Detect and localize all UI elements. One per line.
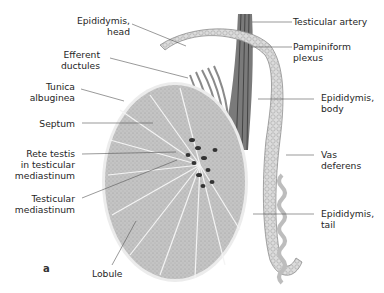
label-text: mediastinum xyxy=(10,170,75,181)
label-text: Septum xyxy=(20,118,75,129)
label-text: Testicular artery xyxy=(293,16,367,27)
label-rete-testis: Rete testis in testicular mediastinum xyxy=(10,148,75,181)
testis-body xyxy=(102,82,248,282)
label-lobule: Lobule xyxy=(92,268,122,279)
label-text: tail xyxy=(321,219,374,230)
label-text: head xyxy=(70,26,130,37)
label-vas-deferens: Vas deferens xyxy=(321,149,361,171)
anatomy-figure: Epididymis, head Efferent ductules Tunic… xyxy=(0,0,384,293)
label-epididymis-tail: Epididymis, tail xyxy=(321,208,374,230)
label-text: plexus xyxy=(293,52,351,63)
label-text: Testicular xyxy=(10,193,75,204)
label-tunica-albuginea: Tunica albuginea xyxy=(20,81,75,103)
label-text: albuginea xyxy=(20,92,75,103)
label-text: Efferent xyxy=(44,49,100,60)
label-text: Rete testis xyxy=(10,148,75,159)
label-text: Epididymis, xyxy=(321,208,374,219)
label-text: in testicular xyxy=(10,159,75,170)
label-text: Tunica xyxy=(20,81,75,92)
label-text: Epididymis, xyxy=(321,92,374,103)
label-text: Lobule xyxy=(92,268,122,279)
label-text: ductules xyxy=(44,60,100,71)
panel-letter: a xyxy=(43,263,50,274)
label-epididymis-body: Epididymis, body xyxy=(321,92,374,114)
label-text: Pampiniform xyxy=(293,41,351,52)
label-text: Vas xyxy=(321,149,361,160)
label-epididymis-head: Epididymis, head xyxy=(70,15,130,37)
label-septum: Septum xyxy=(20,118,75,129)
label-text: deferens xyxy=(321,160,361,171)
label-text: mediastinum xyxy=(10,204,75,215)
label-testicular-artery: Testicular artery xyxy=(293,16,367,27)
label-text: Epididymis, xyxy=(70,15,130,26)
label-efferent-ductules: Efferent ductules xyxy=(44,49,100,71)
label-pampiniform-plexus: Pampiniform plexus xyxy=(293,41,351,63)
label-text: body xyxy=(321,103,374,114)
label-testicular-mediastinum: Testicular mediastinum xyxy=(10,193,75,215)
